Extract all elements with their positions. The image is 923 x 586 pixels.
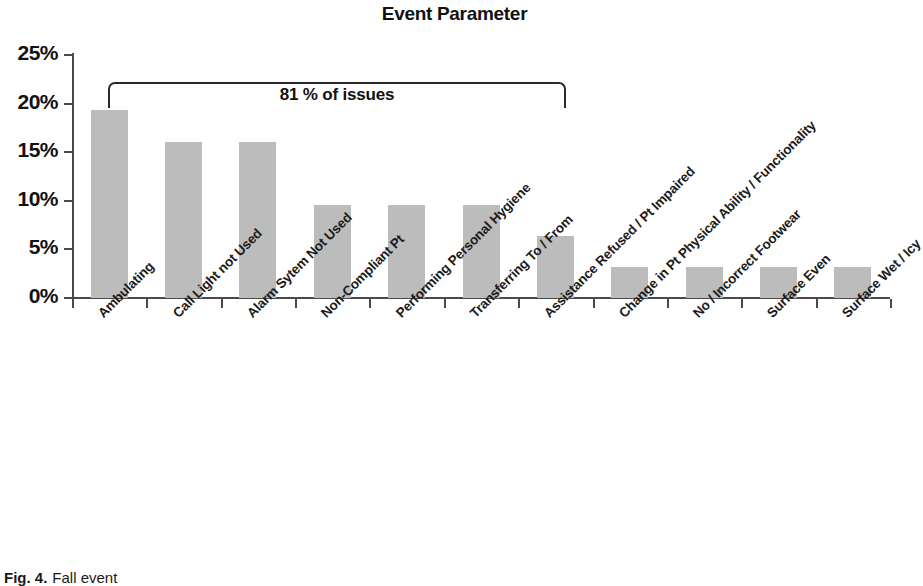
figure-caption-label: Fig. 4. bbox=[4, 569, 47, 586]
y-tick-label: 10% bbox=[0, 187, 58, 211]
figure-caption-text: Fall event bbox=[52, 569, 117, 586]
figure-caption: Fig. 4.Fall event bbox=[4, 569, 117, 586]
y-axis-line bbox=[72, 53, 74, 299]
annotation-bracket-label: 81 % of issues bbox=[108, 85, 566, 105]
y-tick-mark bbox=[64, 200, 73, 202]
y-tick-mark bbox=[64, 54, 73, 56]
bar bbox=[91, 110, 128, 298]
y-tick-mark bbox=[64, 103, 73, 105]
y-tick-label: 20% bbox=[0, 90, 58, 114]
y-tick-mark bbox=[64, 248, 73, 250]
y-tick-label: 15% bbox=[0, 138, 58, 162]
chart-title: Event Parameter bbox=[0, 3, 909, 25]
y-tick-label: 5% bbox=[0, 235, 58, 259]
bar bbox=[165, 142, 202, 298]
bar bbox=[239, 142, 276, 298]
x-axis-category-labels: AmbulatingCall Light not UsedAlarm Sytem… bbox=[0, 300, 909, 540]
y-tick-label: 25% bbox=[0, 41, 58, 65]
y-tick-mark bbox=[64, 151, 73, 153]
